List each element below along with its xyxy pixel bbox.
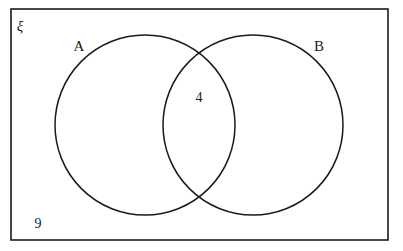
universal-set-rectangle [11, 9, 388, 240]
set-b-label: B [314, 38, 324, 54]
intersection-count-label: 4 [196, 90, 203, 105]
outside-count-label: 9 [35, 216, 42, 231]
set-a-label: A [74, 38, 85, 54]
universe-label: ξ [17, 18, 24, 34]
venn-diagram-svg: ξ A B 4 9 [0, 0, 403, 251]
venn-diagram-canvas: ξ A B 4 9 [0, 0, 403, 251]
